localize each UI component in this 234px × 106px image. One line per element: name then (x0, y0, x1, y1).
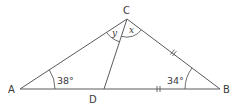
angle-label-y: y (111, 28, 118, 38)
triangle-diagram: A B C D 38° 34° y x (0, 0, 234, 106)
point-label-a: A (8, 84, 15, 95)
angle-label-a: 38° (57, 75, 74, 86)
angle-label-x: x (129, 25, 134, 35)
angle-arc-a (49, 70, 55, 89)
point-label-c: C (123, 5, 130, 16)
point-label-d: D (89, 94, 97, 105)
point-label-b: B (223, 84, 230, 95)
angle-label-b: 34° (167, 75, 184, 86)
angle-arc-b (185, 68, 192, 89)
